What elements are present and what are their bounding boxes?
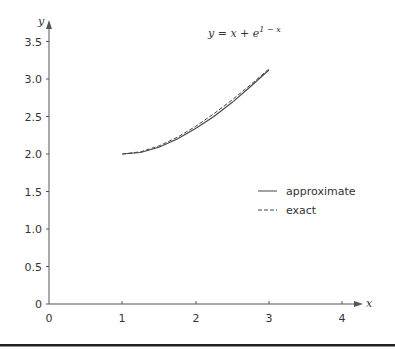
x-tick-label: 1 (119, 312, 126, 325)
x-tick-label: 3 (266, 312, 273, 325)
y-tick-label: 1.5 (25, 186, 43, 199)
x-axis-arrow-icon (354, 301, 363, 307)
approximate-series-line (122, 70, 269, 154)
bottom-rule (0, 344, 395, 347)
legend-exact-label: exact (286, 204, 317, 217)
equation-label: y = x + e1 − x (207, 25, 281, 40)
y-tick-label: 2.0 (25, 148, 43, 161)
y-tick-label: 1.0 (25, 223, 43, 236)
y-tick-label: 3.0 (25, 73, 43, 86)
x-tick-label: 2 (193, 312, 200, 325)
exact-series-line (122, 69, 269, 154)
x-tick-label: 0 (46, 312, 53, 325)
y-tick-label: 0 (35, 298, 42, 311)
legend: approximate exact (258, 185, 356, 217)
legend-approximate-label: approximate (286, 185, 356, 198)
y-tick-label: 2.5 (25, 111, 43, 124)
x-axis-label: x (366, 297, 373, 310)
chart: y x 0 0.5 1.0 1.5 2.0 2.5 3.0 3.5 0 1 2 … (0, 0, 395, 350)
y-tick-label: 0.5 (25, 261, 43, 274)
y-tick-labels: 0 0.5 1.0 1.5 2.0 2.5 3.0 3.5 (25, 36, 43, 312)
x-tick-labels: 0 1 2 3 4 (46, 312, 346, 325)
y-tick-label: 3.5 (25, 36, 43, 49)
x-tick-label: 4 (339, 312, 346, 325)
y-axis-label: y (37, 15, 45, 28)
y-axis-arrow-icon (46, 20, 52, 29)
